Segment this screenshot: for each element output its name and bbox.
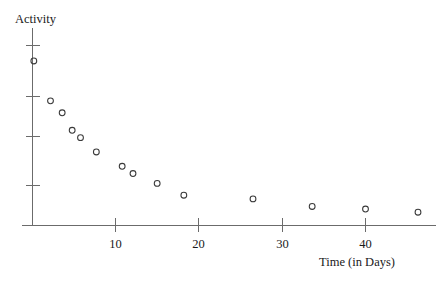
data-point	[415, 209, 421, 215]
data-point-series	[31, 58, 421, 215]
x-tick-label-10: 10	[109, 237, 122, 251]
data-point	[181, 192, 187, 198]
data-point	[78, 135, 84, 141]
data-point	[31, 58, 37, 64]
x-axis-title: Time (in Days)	[319, 255, 395, 269]
data-point	[130, 171, 136, 177]
data-point	[119, 163, 125, 169]
x-tick-label-30: 30	[276, 237, 289, 251]
data-point	[363, 206, 369, 212]
data-point	[69, 127, 75, 133]
data-point	[309, 204, 315, 210]
data-point	[59, 110, 65, 116]
scatter-plot-svg: 10 20 30 40 Activity Time (in Days)	[0, 0, 444, 284]
chart-title: Activity	[15, 12, 57, 26]
data-point	[48, 98, 54, 104]
x-tick-label-40: 40	[359, 237, 372, 251]
data-point	[93, 149, 99, 155]
data-point	[250, 196, 256, 202]
chart-container: 10 20 30 40 Activity Time (in Days)	[0, 0, 444, 284]
data-point	[154, 181, 160, 187]
x-tick-label-20: 20	[192, 237, 205, 251]
